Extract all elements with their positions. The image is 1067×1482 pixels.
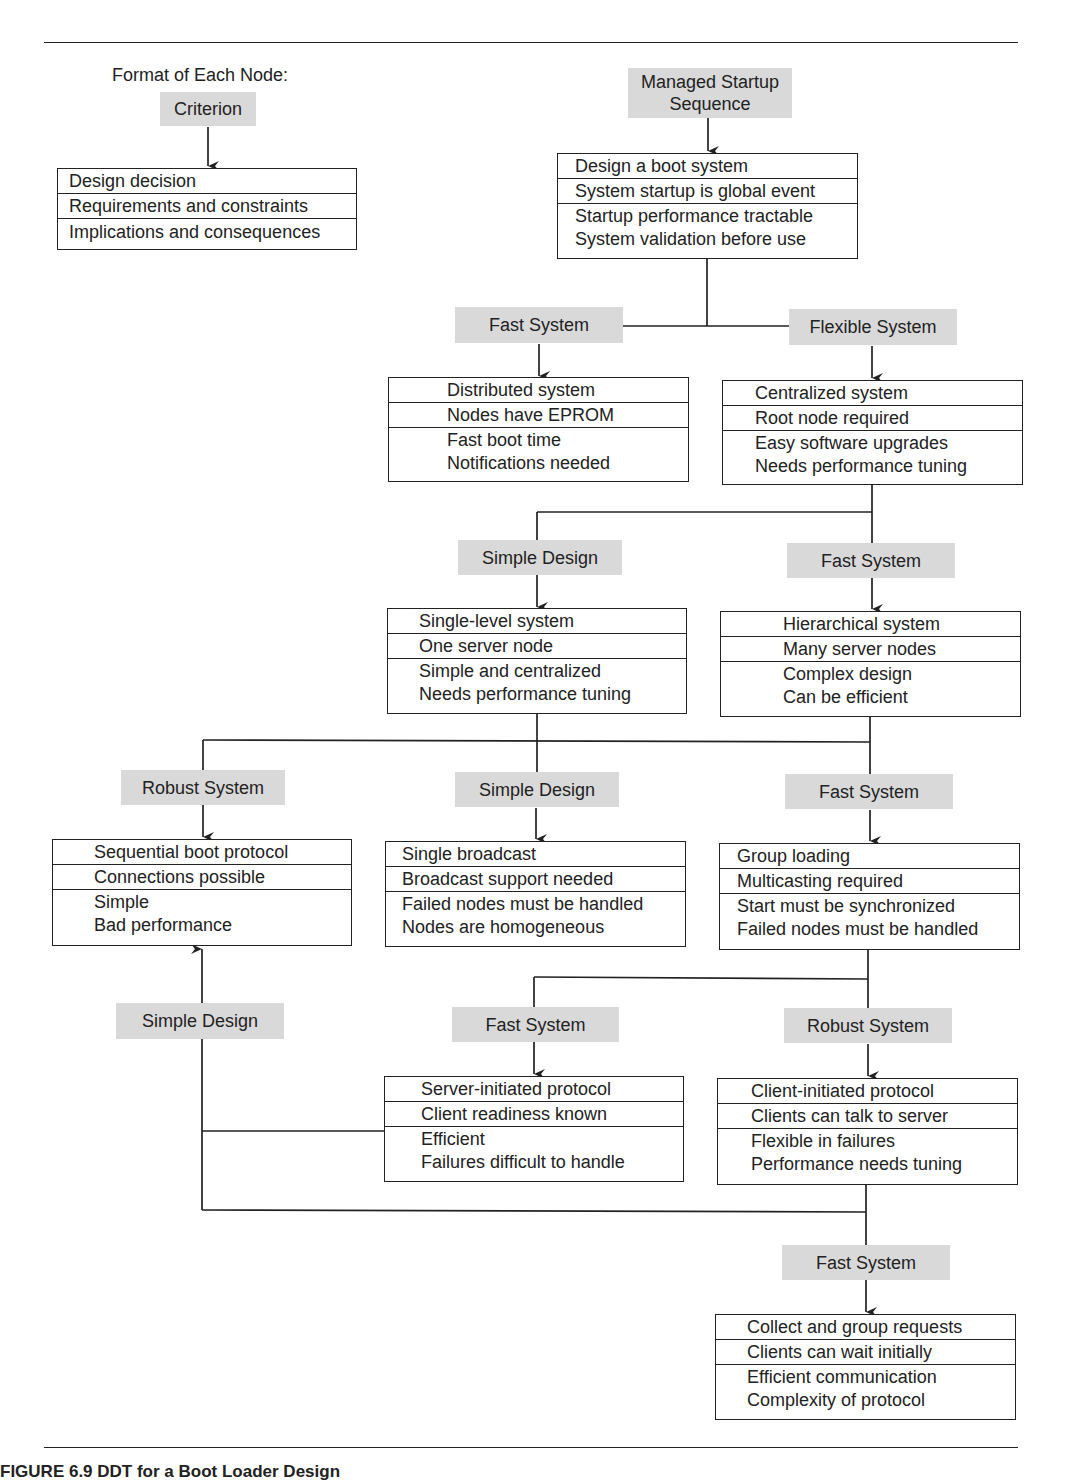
- node-decision: Distributed system: [389, 378, 688, 403]
- node-implications: Failed nodes must be handled Nodes are h…: [386, 892, 685, 917]
- node-single-broadcast: Single broadcast Broadcast support neede…: [385, 841, 686, 947]
- implication-2: Bad performance: [94, 914, 351, 937]
- node-decision: Single broadcast: [386, 842, 685, 867]
- node-requirement: System startup is global event: [558, 179, 857, 204]
- node-implications: Simple and centralized Needs performance…: [388, 659, 686, 684]
- node-centralized-system: Centralized system Root node required Ea…: [722, 380, 1023, 485]
- legend-row-requirements: Requirements and constraints: [58, 194, 356, 219]
- implication-2: Needs performance tuning: [755, 455, 1022, 478]
- legend-row-implications: Implications and consequences: [58, 219, 356, 244]
- figure-caption: FIGURE 6.9 DDT for a Boot Loader Design: [0, 1462, 340, 1482]
- criterion-flexible-system: Flexible System: [789, 309, 957, 345]
- node-decision: Single-level system: [388, 609, 686, 634]
- legend-title: Format of Each Node:: [112, 65, 288, 86]
- node-decision: Group loading: [720, 844, 1019, 869]
- implication-2: Performance needs tuning: [751, 1153, 1017, 1176]
- criterion-fast-system: Fast System: [785, 774, 953, 809]
- implication-1: Simple: [94, 891, 351, 914]
- node-requirement: Broadcast support needed: [386, 867, 685, 892]
- node-hierarchical-system: Hierarchical system Many server nodes Co…: [720, 611, 1021, 717]
- node-sequential-boot: Sequential boot protocol Connections pos…: [52, 839, 352, 946]
- criterion-robust-system: Robust System: [784, 1008, 952, 1043]
- criterion-fast-system: Fast System: [787, 543, 955, 578]
- node-requirement: Nodes have EPROM: [389, 403, 688, 428]
- legend-criterion: Criterion: [160, 92, 256, 126]
- legend-node-format: Design decision Requirements and constra…: [57, 168, 357, 250]
- node-implications: Efficient Failures difficult to handle: [385, 1127, 683, 1152]
- node-decision: Client-initiated protocol: [718, 1079, 1017, 1104]
- criterion-simple-design-back-edge: Simple Design: [116, 1003, 284, 1039]
- node-implications: Simple Bad performance: [53, 890, 351, 915]
- node-implications: Easy software upgrades Needs performance…: [723, 431, 1022, 456]
- criterion-robust-system: Robust System: [121, 770, 285, 805]
- implication-1: Efficient: [421, 1128, 683, 1151]
- node-requirement: Client readiness known: [385, 1102, 683, 1127]
- criterion-managed-startup: Managed StartupSequence: [628, 68, 792, 118]
- node-boot-system: Design a boot system System startup is g…: [557, 153, 858, 259]
- node-client-initiated: Client-initiated protocol Clients can ta…: [717, 1078, 1018, 1185]
- node-requirement: Root node required: [723, 406, 1022, 431]
- node-requirement: Clients can talk to server: [718, 1104, 1017, 1129]
- node-implications: Efficient communication Complexity of pr…: [716, 1365, 1015, 1390]
- node-requirement: Multicasting required: [720, 869, 1019, 894]
- node-requirement: Connections possible: [53, 865, 351, 890]
- node-requirement: Many server nodes: [721, 637, 1020, 662]
- node-decision: Server-initiated protocol: [385, 1077, 683, 1102]
- implication-2: System validation before use: [575, 228, 857, 251]
- implication-1: Flexible in failures: [751, 1130, 1017, 1153]
- implication-1: Simple and centralized: [419, 660, 686, 683]
- node-implications: Fast boot time Notifications needed: [389, 428, 688, 453]
- node-decision: Collect and group requests: [716, 1315, 1015, 1340]
- implication-1: Failed nodes must be handled: [402, 893, 685, 916]
- implication-2: Needs performance tuning: [419, 683, 686, 706]
- criterion-text: Managed StartupSequence: [628, 71, 792, 115]
- node-implications: Complex design Can be efficient: [721, 662, 1020, 687]
- bottom-rule: [44, 1447, 1018, 1448]
- criterion-simple-design: Simple Design: [458, 540, 622, 575]
- implication-2: Failures difficult to handle: [421, 1151, 683, 1174]
- node-distributed-system: Distributed system Nodes have EPROM Fast…: [388, 377, 689, 482]
- node-decision: Hierarchical system: [721, 612, 1020, 637]
- implication-1: Startup performance tractable: [575, 205, 857, 228]
- implication-1: Complex design: [783, 663, 1020, 686]
- criterion-simple-design: Simple Design: [455, 772, 619, 807]
- node-group-loading: Group loading Multicasting required Star…: [719, 843, 1020, 950]
- implication-2: Can be efficient: [783, 686, 1020, 709]
- node-single-level-system: Single-level system One server node Simp…: [387, 608, 687, 714]
- criterion-fast-system: Fast System: [455, 307, 623, 343]
- node-decision: Sequential boot protocol: [53, 840, 351, 865]
- implication-1: Start must be synchronized: [737, 895, 1019, 918]
- implication-1: Efficient communication: [747, 1366, 1015, 1389]
- node-implications: Flexible in failures Performance needs t…: [718, 1129, 1017, 1154]
- implication-1: Fast boot time: [447, 429, 688, 452]
- node-requirement: Clients can wait initially: [716, 1340, 1015, 1365]
- node-implications: Start must be synchronized Failed nodes …: [720, 894, 1019, 919]
- top-rule: [44, 42, 1018, 43]
- node-server-initiated: Server-initiated protocol Client readine…: [384, 1076, 684, 1182]
- implication-2: Complexity of protocol: [747, 1389, 1015, 1412]
- criterion-fast-system: Fast System: [452, 1007, 619, 1042]
- node-implications: Startup performance tractable System val…: [558, 204, 857, 229]
- node-requirement: One server node: [388, 634, 686, 659]
- legend-row-decision: Design decision: [58, 169, 356, 194]
- implication-1: Easy software upgrades: [755, 432, 1022, 455]
- implication-2: Notifications needed: [447, 452, 688, 475]
- implication-2: Failed nodes must be handled: [737, 918, 1019, 941]
- node-decision: Centralized system: [723, 381, 1022, 406]
- node-decision: Design a boot system: [558, 154, 857, 179]
- implication-2: Nodes are homogeneous: [402, 916, 685, 939]
- criterion-fast-system: Fast System: [782, 1245, 950, 1280]
- node-collect-group-requests: Collect and group requests Clients can w…: [715, 1314, 1016, 1420]
